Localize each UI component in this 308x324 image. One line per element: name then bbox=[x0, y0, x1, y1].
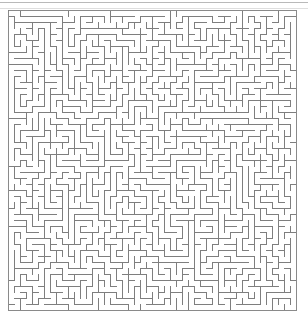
maze-container bbox=[0, 0, 308, 324]
maze-wall-group bbox=[9, 11, 297, 311]
maze-graphic bbox=[0, 0, 308, 324]
maze-page bbox=[0, 0, 308, 324]
maze-wall-path bbox=[9, 11, 297, 311]
